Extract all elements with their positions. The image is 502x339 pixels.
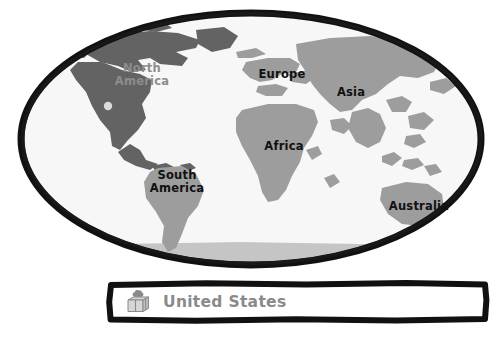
world-map-selector: North America South America Europe Afric… bbox=[0, 0, 502, 339]
selected-region-panel[interactable]: United States bbox=[106, 280, 490, 324]
gift-box-icon bbox=[125, 289, 151, 315]
selected-region-label: United States bbox=[163, 293, 286, 311]
location-marker-dot bbox=[104, 102, 112, 110]
world-map[interactable]: North America South America Europe Afric… bbox=[0, 0, 502, 285]
panel-content: United States bbox=[106, 280, 490, 324]
world-map-graphic bbox=[0, 0, 502, 285]
